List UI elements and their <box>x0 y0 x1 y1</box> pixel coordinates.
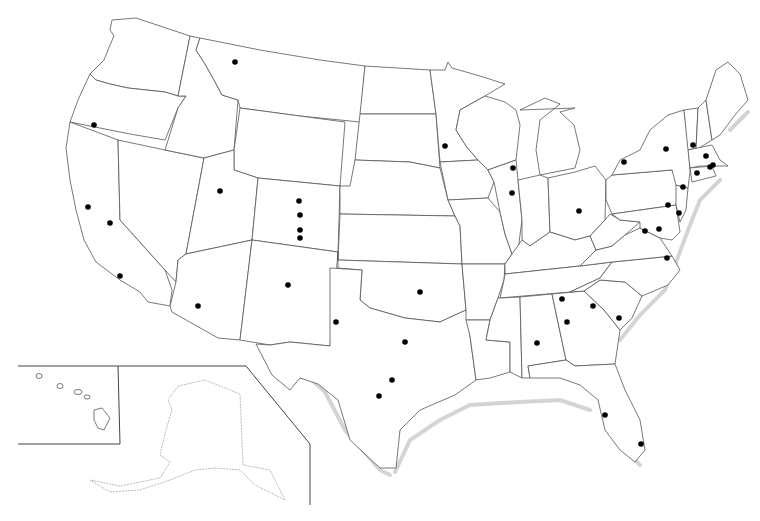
city-dot-mt-0[interactable] <box>232 59 238 65</box>
city-dot-fl-39[interactable] <box>602 412 608 418</box>
hawaii-inset <box>36 374 110 431</box>
city-dot-il-19[interactable] <box>509 190 515 196</box>
city-dot-md-32[interactable] <box>656 226 662 232</box>
city-dot-tx-12[interactable] <box>333 319 339 325</box>
city-dot-co-9[interactable] <box>297 235 303 241</box>
city-dot-nh-23[interactable] <box>690 142 696 148</box>
state-michigan[interactable] <box>520 98 580 175</box>
city-dot-co-8[interactable] <box>297 227 303 233</box>
state-florida[interactable] <box>528 360 645 462</box>
state-kansas[interactable] <box>338 214 462 264</box>
city-dot-mn-17[interactable] <box>442 143 448 149</box>
city-dot-ny-22[interactable] <box>663 146 669 152</box>
city-dot-ct-27[interactable] <box>694 170 700 176</box>
city-dot-ma-24[interactable] <box>703 153 709 159</box>
city-dot-pa-29[interactable] <box>665 202 671 208</box>
city-dot-nm-11[interactable] <box>285 282 291 288</box>
city-dot-sc-36[interactable] <box>590 303 596 309</box>
city-dot-wi-18[interactable] <box>510 165 516 171</box>
city-dot-ok-13[interactable] <box>417 289 423 295</box>
city-dot-co-6[interactable] <box>296 198 302 204</box>
city-dot-ny-28[interactable] <box>680 184 686 190</box>
state-nebraska[interactable] <box>340 160 455 216</box>
city-dot-ca-3[interactable] <box>107 220 113 226</box>
state-maine[interactable] <box>706 62 748 140</box>
city-dot-ca-2[interactable] <box>85 204 91 210</box>
city-dot-ut-5[interactable] <box>217 188 223 194</box>
city-dot-az-10[interactable] <box>195 303 201 309</box>
city-dot-fl-40[interactable] <box>638 441 644 447</box>
city-dot-sc-37[interactable] <box>616 315 622 321</box>
state-wyoming[interactable] <box>234 108 345 186</box>
city-dot-oh-20[interactable] <box>576 208 582 214</box>
city-dot-co-7[interactable] <box>297 212 303 218</box>
us-map-canvas <box>0 0 760 521</box>
state-colorado[interactable] <box>252 178 340 252</box>
us-map <box>0 0 760 521</box>
state-south-dakota[interactable] <box>355 114 440 168</box>
city-dot-or-1[interactable] <box>91 122 97 128</box>
city-dot-tx-16[interactable] <box>376 393 382 399</box>
city-dot-tn-34[interactable] <box>559 296 565 302</box>
city-dot-va-33[interactable] <box>664 255 670 261</box>
city-dot-tx-15[interactable] <box>389 377 395 383</box>
city-dot-ga-35[interactable] <box>564 319 570 325</box>
city-dot-va-31[interactable] <box>642 228 648 234</box>
city-dot-ca-4[interactable] <box>117 273 123 279</box>
hawaii-inset-frame <box>18 366 120 444</box>
city-dot-ny-21[interactable] <box>621 159 627 165</box>
state-north-dakota[interactable] <box>360 66 436 114</box>
city-dot-ri-26[interactable] <box>707 164 713 170</box>
city-dot-tx-14[interactable] <box>402 339 408 345</box>
state-new-mexico[interactable] <box>240 240 338 346</box>
city-dot-al-38[interactable] <box>534 340 540 346</box>
city-dot-nj-30[interactable] <box>676 210 682 216</box>
